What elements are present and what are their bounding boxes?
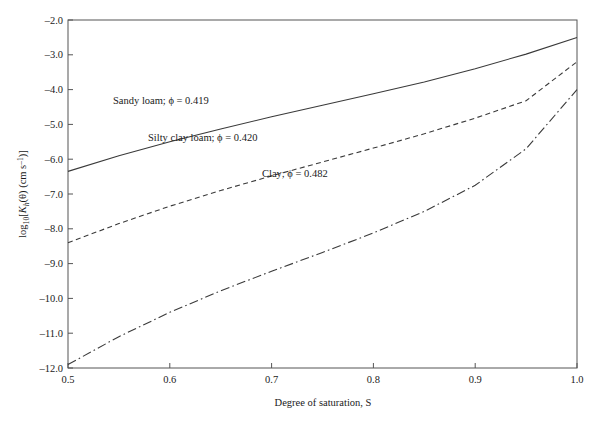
x-axis-title-text: Degree of saturation, S bbox=[275, 397, 372, 408]
y-title-log: log bbox=[17, 224, 28, 238]
x-axis-title: Degree of saturation, S bbox=[275, 397, 372, 408]
x-tick-label: 0.9 bbox=[469, 374, 482, 385]
x-tick-label: 0.5 bbox=[61, 374, 74, 385]
y-tick-label: –2.0 bbox=[44, 15, 63, 26]
x-tick-label: 0.7 bbox=[265, 374, 278, 385]
y-tick-label: –11.0 bbox=[39, 328, 63, 339]
y-tick-label: –10.0 bbox=[38, 293, 63, 304]
y-title-theta: (θ) bbox=[17, 190, 29, 203]
y-tick-label: –3.0 bbox=[44, 49, 63, 60]
y-tick-label: –7.0 bbox=[44, 189, 63, 200]
y-tick-label: –4.0 bbox=[44, 84, 63, 95]
y-tick-label: –8.0 bbox=[44, 223, 63, 234]
y-tick-label: –6.0 bbox=[44, 154, 63, 165]
kh-vs-saturation-chart: –2.0 –3.0 –4.0 –5.0 –6.0 –7.0 –8.0 –9.0 … bbox=[0, 0, 598, 425]
y-title-exp: –1 bbox=[16, 157, 25, 166]
figure-container: –2.0 –3.0 –4.0 –5.0 –6.0 –7.0 –8.0 –9.0 … bbox=[0, 0, 598, 425]
y-tick-label: –9.0 bbox=[44, 258, 63, 269]
y-title-close: )] bbox=[17, 150, 29, 157]
x-tick-label: 1.0 bbox=[570, 374, 583, 385]
clay-annotation: Clay; ϕ = 0.482 bbox=[262, 168, 328, 179]
y-tick-label: –12.0 bbox=[38, 363, 63, 374]
x-tick-label: 0.8 bbox=[367, 374, 380, 385]
y-title-units: (cm s bbox=[17, 165, 29, 191]
chart-background bbox=[0, 0, 598, 425]
y-tick-label: –5.0 bbox=[44, 119, 63, 130]
silty-clay-loam-annotation: Silty clay loam; ϕ = 0.420 bbox=[148, 132, 257, 143]
x-tick-label: 0.6 bbox=[163, 374, 176, 385]
